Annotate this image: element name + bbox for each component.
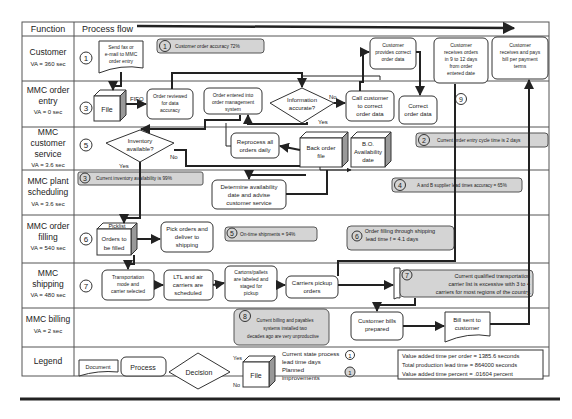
- svg-text:MMC: MMC: [38, 268, 58, 278]
- svg-text:Order entered into: Order entered into: [213, 92, 254, 98]
- lane-customer: Customer VA = 360 sec 1: [30, 47, 92, 67]
- svg-text:Customer: Customer: [30, 47, 67, 57]
- order-reviewed: Order reviewed for data accuracy: [147, 89, 193, 119]
- customer-pays-bill: Customer receives and pays bill per paym…: [492, 37, 548, 79]
- svg-text:Cartons/pallets: Cartons/pallets: [234, 269, 268, 275]
- legend-process: Process: [121, 357, 166, 376]
- svg-text:VA = 360 sec: VA = 360 sec: [30, 61, 65, 67]
- lane-customer-service: MMC customer service VA = 3.6 sec 5: [31, 127, 92, 168]
- note-7-carrier-list: 7 Current qualified transportation carri…: [394, 268, 533, 299]
- svg-text:A and B supplier lead times ac: A and B supplier lead times accuracy = 6…: [417, 183, 507, 188]
- svg-text:Yes: Yes: [233, 355, 242, 361]
- svg-text:Pick orders and: Pick orders and: [166, 226, 208, 232]
- svg-text:carrier selected: carrier selected: [111, 288, 145, 294]
- inventory-available-decision: Inventory available? No Yes: [106, 130, 178, 169]
- svg-text:file: file: [317, 153, 325, 159]
- svg-text:scheduled: scheduled: [174, 290, 201, 296]
- svg-text:customer: customer: [455, 325, 480, 331]
- svg-text:Current inventory availability: Current inventory availability is 99%: [96, 176, 173, 181]
- legend-decision: Decision Yes No: [169, 353, 242, 389]
- svg-text:7: 7: [405, 272, 409, 279]
- svg-text:3: 3: [83, 175, 87, 182]
- svg-text:Current state process: Current state process: [282, 351, 339, 357]
- svg-text:date and advise: date and advise: [228, 192, 271, 198]
- svg-text:Decision: Decision: [186, 369, 213, 376]
- svg-text:Customer bills: Customer bills: [358, 318, 396, 324]
- svg-text:No: No: [329, 94, 337, 100]
- svg-text:Yes: Yes: [318, 119, 328, 125]
- svg-text:Order reviewed: Order reviewed: [153, 93, 187, 99]
- header-process-flow: Process flow: [82, 24, 134, 34]
- svg-text:MMC: MMC: [38, 127, 58, 137]
- svg-text:mode and: mode and: [117, 281, 139, 287]
- svg-text:MMC order: MMC order: [27, 221, 70, 231]
- legend-file: File: [243, 356, 275, 387]
- svg-text:Call customer: Call customer: [352, 95, 389, 101]
- svg-text:Bill sent to: Bill sent to: [453, 317, 481, 323]
- svg-text:provides correct: provides correct: [375, 49, 411, 55]
- svg-text:receives and pays: receives and pays: [500, 49, 541, 55]
- svg-text:carriers are: carriers are: [173, 282, 204, 288]
- svg-text:MMC billing: MMC billing: [26, 314, 71, 324]
- svg-text:to correct: to correct: [357, 103, 382, 109]
- svg-text:receives orders: receives orders: [444, 49, 479, 55]
- order-entered: Order entered into order management syst…: [204, 88, 262, 114]
- svg-text:Availability: Availability: [354, 149, 382, 155]
- customer-provides-correct-data: Customer provides correct order data: [370, 38, 416, 69]
- svg-text:from order: from order: [449, 63, 472, 69]
- svg-text:date: date: [362, 157, 374, 163]
- svg-text:bill per payment: bill per payment: [502, 56, 538, 62]
- svg-text:order management: order management: [212, 99, 255, 105]
- svg-text:entry: entry: [39, 96, 59, 106]
- svg-text:Inventory: Inventory: [128, 138, 153, 144]
- svg-text:Legend: Legend: [34, 356, 63, 366]
- svg-text:B.O.: B.O.: [362, 141, 374, 147]
- svg-text:pickup: pickup: [244, 290, 259, 296]
- svg-text:6: 6: [355, 233, 359, 240]
- svg-text:VA = 3.6 sec: VA = 3.6 sec: [31, 201, 64, 207]
- svg-text:Yes: Yes: [119, 163, 129, 169]
- svg-text:system: system: [225, 106, 241, 112]
- svg-text:accurate?: accurate?: [289, 105, 316, 111]
- svg-text:MMC order: MMC order: [27, 85, 70, 95]
- svg-text:Order filling through shipping: Order filling through shipping: [365, 228, 435, 234]
- svg-text:Send fax or: Send fax or: [108, 44, 134, 50]
- svg-text:3: 3: [84, 104, 89, 113]
- process-flow-diagram: Function Process flow Customer VA = 360 …: [0, 0, 572, 419]
- svg-text:Back order: Back order: [306, 145, 335, 151]
- svg-text:order entry: order entry: [109, 58, 134, 64]
- svg-text:Transportation: Transportation: [112, 274, 144, 280]
- svg-text:prepared: prepared: [365, 326, 389, 332]
- svg-text:Customer: Customer: [450, 42, 472, 48]
- note-4-supplier-lead-times: 4 A and B supplier lead times accuracy =…: [392, 178, 522, 192]
- information-accurate-decision: Information accurate? No Yes: [270, 88, 337, 125]
- svg-text:Customer: Customer: [509, 42, 531, 48]
- svg-text:entered date: entered date: [447, 70, 475, 76]
- svg-text:VA = 2 sec: VA = 2 sec: [34, 328, 62, 334]
- svg-text:Customer order accuracy 72%: Customer order accuracy 72%: [175, 44, 241, 49]
- svg-text:order data: order data: [382, 56, 405, 62]
- svg-text:Document: Document: [85, 364, 111, 370]
- carriers-pickup: Carriers pickup orders: [286, 276, 338, 298]
- svg-text:filling: filling: [38, 232, 58, 242]
- note-5-on-time-shipments: 5 On-time shipments = 94%: [225, 227, 317, 241]
- svg-text:2: 2: [422, 137, 426, 144]
- svg-text:customer: customer: [31, 138, 66, 148]
- svg-text:lead time days: lead time days: [282, 359, 321, 365]
- svg-text:staged for: staged for: [240, 283, 263, 289]
- svg-text:decades ago are very unproduct: decades ago are very unproductive: [247, 334, 319, 339]
- svg-text:scheduling: scheduling: [28, 187, 69, 197]
- ltl-air-carriers: LTL and air carriers are scheduled: [164, 270, 213, 300]
- bill-sent-document: Bill sent to customer: [445, 312, 490, 342]
- svg-text:terms: terms: [514, 63, 527, 69]
- correct-order-data: Correct order data: [399, 96, 437, 124]
- fifo-label: FIFO: [130, 96, 144, 102]
- svg-text:MMC plant: MMC plant: [27, 176, 69, 186]
- svg-text:No: No: [233, 382, 240, 388]
- lane-legend: Legend: [34, 356, 63, 366]
- svg-text:Orders to: Orders to: [101, 236, 127, 242]
- note-8-billing-systems: 8 Current billing and payables systems i…: [234, 309, 329, 345]
- reprocess-orders: Reprocess all orders daily: [231, 133, 279, 158]
- send-fax-document: Send fax or e-mail to MMC order entry: [99, 41, 143, 73]
- svg-text:On-time shipments = 94%: On-time shipments = 94%: [240, 232, 296, 237]
